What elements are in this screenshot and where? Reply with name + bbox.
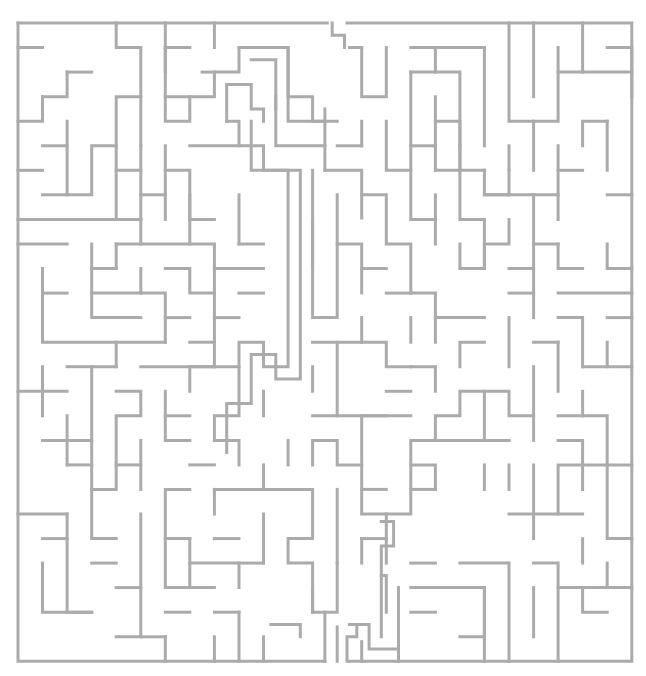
- maze-wall: [214, 489, 337, 612]
- maze-wall: [509, 465, 632, 514]
- maze-wall: [558, 244, 583, 269]
- maze-wall: [313, 342, 338, 416]
- maze-wall: [411, 465, 436, 490]
- maze-wall: [313, 391, 534, 514]
- maze-wall: [227, 84, 264, 121]
- maze-wall: [349, 588, 398, 649]
- maze-wall: [313, 195, 338, 318]
- maze-wall: [251, 60, 276, 109]
- maze-wall: [337, 244, 362, 293]
- maze-wall: [337, 416, 362, 465]
- maze-wall: [460, 342, 485, 367]
- maze-wall: [435, 97, 460, 146]
- maze-wall: [534, 195, 559, 220]
- maze-wall: [43, 367, 117, 441]
- maze-wall: [460, 244, 485, 269]
- maze-wall: [116, 514, 141, 637]
- maze-wall: [116, 23, 141, 170]
- maze-wall: [165, 48, 190, 122]
- maze-walls: [0, 0, 646, 676]
- maze-wall: [288, 48, 325, 122]
- maze-wall: [411, 367, 436, 392]
- maze-wall: [347, 23, 632, 661]
- maze-wall: [67, 121, 116, 195]
- maze-wall: [165, 269, 214, 294]
- maze-wall: [165, 489, 190, 538]
- maze-wall: [484, 391, 509, 440]
- maze-wall: [190, 563, 239, 588]
- maze-wall: [116, 170, 141, 244]
- maze-wall: [362, 195, 485, 318]
- maze-wall: [484, 219, 509, 268]
- maze-wall: [583, 121, 608, 146]
- maze-wall: [18, 97, 43, 122]
- maze-puzzle: [0, 0, 646, 676]
- maze-wall: [583, 588, 608, 613]
- maze-wall: [558, 318, 583, 367]
- maze-wall: [67, 514, 92, 612]
- maze-wall: [362, 48, 387, 97]
- maze-wall: [43, 72, 68, 97]
- maze-wall: [484, 170, 558, 244]
- maze-wall: [347, 625, 357, 662]
- maze-wall: [92, 391, 141, 489]
- maze-wall: [271, 625, 300, 637]
- maze-wall: [325, 170, 362, 219]
- maze-wall: [386, 121, 411, 170]
- maze-wall: [534, 563, 559, 661]
- maze-wall: [43, 269, 166, 343]
- maze-wall: [460, 146, 485, 269]
- maze-wall: [332, 23, 344, 48]
- maze-wall: [607, 244, 632, 269]
- maze-wall: [558, 416, 632, 539]
- maze-wall: [362, 318, 411, 367]
